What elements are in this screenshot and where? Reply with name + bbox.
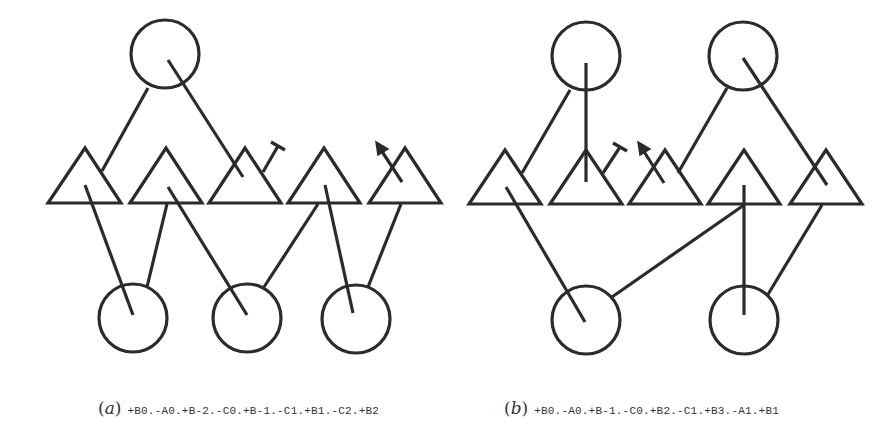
circle-node bbox=[552, 286, 620, 354]
triangle-node bbox=[288, 148, 360, 203]
caption-sequence: +B0.-A0.+B-2.-C0.+B-1.-C1.+B1.-C2.+B2 bbox=[127, 405, 379, 417]
edge-bottom-circle-3-to-triangle-5 bbox=[368, 204, 401, 287]
edge-top-circle-2-to-triangle-3 bbox=[678, 88, 727, 173]
triangle-node bbox=[209, 148, 281, 203]
edge-top-circle-to-triangle-3 bbox=[168, 60, 243, 177]
inhibitor-icon bbox=[263, 142, 285, 172]
circle-node bbox=[99, 284, 167, 352]
triangle-node bbox=[130, 148, 202, 203]
edge-bottom-circle-2-to-triangle-5 bbox=[767, 205, 822, 296]
caption-open-paren: ( bbox=[98, 398, 105, 418]
triangle-node bbox=[369, 148, 441, 203]
edge-bottom-circle-1-to-triangle-4 bbox=[612, 205, 744, 297]
caption-a: (a)+B0.-A0.+B-2.-C0.+B-1.-C1.+B1.-C2.+B2 bbox=[98, 398, 379, 418]
panel-a bbox=[48, 20, 441, 353]
circle-node bbox=[131, 20, 199, 88]
edge-bottom-circle-1-to-triangle-2 bbox=[147, 204, 167, 287]
caption-open-paren: ( bbox=[504, 398, 511, 418]
caption-close-paren: ) bbox=[115, 398, 122, 418]
edge-bottom-circle-2-to-triangle-4 bbox=[264, 204, 318, 287]
inhibitor-icon bbox=[603, 143, 627, 173]
diagram-canvas bbox=[0, 0, 888, 443]
triangle-node bbox=[790, 150, 862, 204]
caption-close-paren: ) bbox=[522, 398, 529, 418]
arrow-icon bbox=[376, 142, 402, 182]
edge-triangle-1-to-bottom-circle-1 bbox=[506, 187, 585, 322]
caption-b: (b)+B0.-A0.+B-1.-C0.+B2.-C1.+B3.-A1.+B1 bbox=[504, 398, 779, 418]
caption-label: a bbox=[105, 398, 115, 418]
panel-b bbox=[469, 22, 862, 354]
triangle-node bbox=[629, 150, 701, 204]
circle-node bbox=[213, 284, 281, 352]
circle-node bbox=[322, 285, 390, 353]
edge-top-circle-to-triangle-1 bbox=[102, 88, 148, 171]
edge-top-circle-1-to-triangle-1 bbox=[522, 90, 570, 173]
arrow-icon bbox=[638, 142, 664, 183]
caption-label: b bbox=[511, 398, 522, 418]
circle-node bbox=[709, 22, 777, 90]
caption-sequence: +B0.-A0.+B-1.-C0.+B2.-C1.+B3.-A1.+B1 bbox=[534, 405, 779, 417]
edge-triangle-2-to-bottom-circle-2 bbox=[168, 187, 247, 315]
